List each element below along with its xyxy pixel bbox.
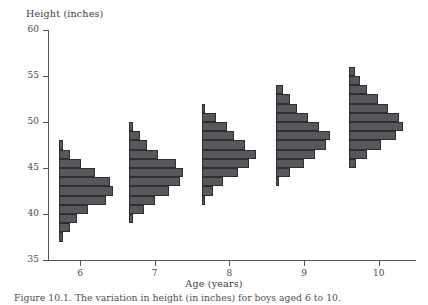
histogram-bar xyxy=(276,140,326,149)
histogram-bar xyxy=(349,85,367,94)
histogram-bar xyxy=(349,150,367,159)
histogram-bar xyxy=(202,104,206,113)
y-tick-35: 35 xyxy=(43,260,48,261)
histogram-bar xyxy=(129,196,154,205)
histogram-bar xyxy=(202,196,206,205)
y-tick-45: 45 xyxy=(43,168,48,169)
histogram-bar xyxy=(349,159,356,168)
x-tick-9 xyxy=(304,261,305,266)
y-tick-55: 55 xyxy=(43,76,48,77)
histogram-bar xyxy=(129,205,143,214)
x-tick-7 xyxy=(155,261,156,266)
histogram-bar xyxy=(202,159,249,168)
y-tick-60: 60 xyxy=(43,30,48,31)
histogram-bar xyxy=(129,168,183,177)
x-tick-label-8: 8 xyxy=(227,268,233,278)
histogram-bar xyxy=(349,67,355,76)
histogram-bar xyxy=(129,131,140,140)
histogram-bar xyxy=(129,122,133,131)
histogram-bar xyxy=(129,140,147,149)
histogram-bar xyxy=(202,113,216,122)
y-tick-50: 50 xyxy=(43,122,48,123)
histogram-bar xyxy=(59,140,63,149)
histogram-bar xyxy=(276,104,298,113)
histogram-bar xyxy=(349,76,360,85)
histogram-bar xyxy=(202,122,227,131)
caption-label: Figure 10.1. xyxy=(14,292,72,303)
histogram-bar xyxy=(349,113,399,122)
histogram-bar xyxy=(202,140,245,149)
histogram-bar xyxy=(349,122,403,131)
histogram-bar xyxy=(59,223,70,232)
histogram-bar xyxy=(276,113,308,122)
histogram-bar xyxy=(129,177,179,186)
histogram-bar xyxy=(202,131,234,140)
x-tick-6 xyxy=(80,261,81,266)
figure-container: Height (inches) 354045505560 678910 Age … xyxy=(0,0,428,305)
histogram-bar xyxy=(59,205,88,214)
x-tick-10 xyxy=(379,261,380,266)
y-tick-label-40: 40 xyxy=(28,208,39,218)
histogram-bar xyxy=(202,168,238,177)
y-tick-40: 40 xyxy=(43,214,48,215)
histogram-bar xyxy=(202,150,256,159)
histogram-bar xyxy=(59,159,81,168)
x-tick-label-6: 6 xyxy=(77,268,83,278)
histogram-bar xyxy=(276,94,290,103)
histogram-bar xyxy=(129,150,158,159)
histogram-bar xyxy=(129,186,169,195)
histogram-bar xyxy=(276,150,316,159)
y-tick-label-35: 35 xyxy=(28,254,39,264)
y-axis-title: Height (inches) xyxy=(26,8,104,19)
histogram-bar xyxy=(349,140,381,149)
histogram-bar xyxy=(349,94,378,103)
histogram-bar xyxy=(202,186,213,195)
histogram-bar xyxy=(276,177,280,186)
histogram-bar xyxy=(59,186,113,195)
histogram-bar xyxy=(59,168,95,177)
histogram-bar xyxy=(59,214,77,223)
figure-caption: Figure 10.1. The variation in height (in… xyxy=(14,292,418,304)
y-axis-line xyxy=(48,30,49,261)
x-tick-8 xyxy=(229,261,230,266)
plot-area: 354045505560 678910 xyxy=(48,30,416,265)
histogram-bar xyxy=(349,131,396,140)
x-tick-label-9: 9 xyxy=(301,268,307,278)
x-tick-label-10: 10 xyxy=(373,268,384,278)
histogram-bar xyxy=(129,159,176,168)
histogram-bar xyxy=(349,104,389,113)
histogram-bar xyxy=(202,177,224,186)
histogram-bar xyxy=(276,122,319,131)
caption-text: The variation in height (in inches) for … xyxy=(75,292,341,303)
histogram-bar xyxy=(59,232,63,241)
histogram-bar xyxy=(59,150,70,159)
histogram-bar xyxy=(276,131,330,140)
y-tick-label-55: 55 xyxy=(28,70,39,80)
histogram-bar xyxy=(59,177,109,186)
histogram-bar xyxy=(59,196,106,205)
histogram-bar xyxy=(276,168,290,177)
histogram-bar xyxy=(129,214,133,223)
x-axis-title: Age (years) xyxy=(0,278,428,289)
y-tick-label-45: 45 xyxy=(28,162,39,172)
x-tick-label-7: 7 xyxy=(152,268,158,278)
x-axis-line xyxy=(48,260,416,261)
y-tick-label-60: 60 xyxy=(28,24,39,34)
histogram-bar xyxy=(276,159,305,168)
histogram-bar xyxy=(276,85,283,94)
y-tick-label-50: 50 xyxy=(28,116,39,126)
